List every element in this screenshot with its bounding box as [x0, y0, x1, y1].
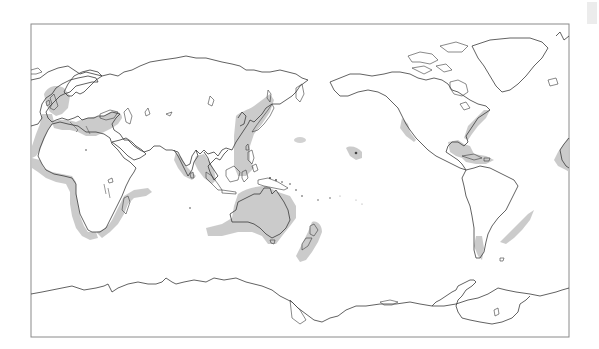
map-frame	[31, 24, 569, 337]
map-canvas	[0, 0, 599, 349]
hawaii-dot	[355, 152, 358, 155]
scrollbar-stub	[587, 2, 597, 24]
shade-central-pacific	[294, 137, 306, 143]
world-map: Outline world map with grey shaded coast…	[0, 0, 599, 349]
